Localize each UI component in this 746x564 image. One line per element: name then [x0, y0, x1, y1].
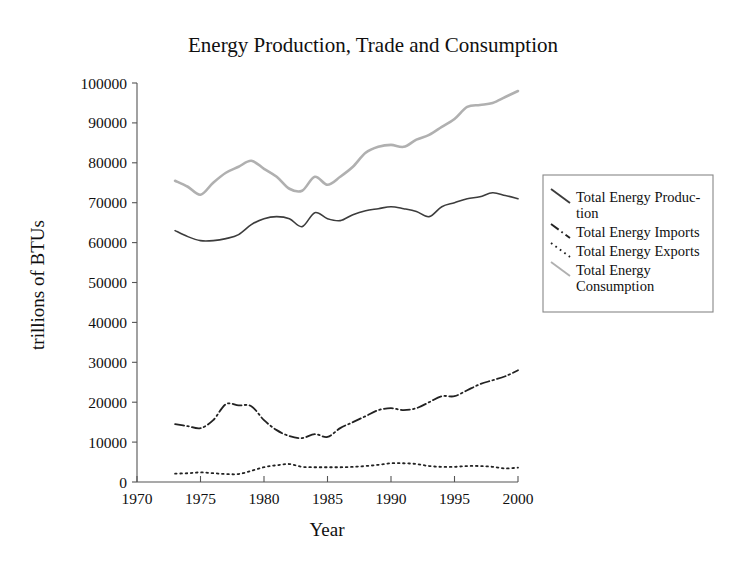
- legend-label-3: Consumption: [576, 278, 655, 294]
- x-axis: 1970197519801985199019952000: [122, 476, 534, 507]
- y-tick-label: 70000: [88, 194, 127, 211]
- y-tick-label: 20000: [88, 394, 127, 411]
- x-tick-label: 1975: [185, 490, 216, 507]
- y-tick-label: 90000: [88, 114, 127, 131]
- y-axis-label: trillions of BTUs: [27, 220, 48, 350]
- x-tick-label: 1980: [249, 490, 280, 507]
- x-tick-label: 2000: [503, 490, 534, 507]
- x-axis-label: Year: [309, 519, 345, 540]
- series-line-3: [175, 91, 518, 195]
- y-tick-label: 50000: [88, 274, 127, 291]
- page-title: Energy Production, Trade and Consumption: [188, 33, 559, 57]
- legend-label-1: Total Energy Imports: [576, 224, 700, 240]
- chart-page: Energy Production, Trade and Consumption…: [0, 0, 746, 564]
- x-tick-label: 1990: [376, 490, 407, 507]
- series-line-2: [175, 463, 518, 474]
- series-line-0: [175, 193, 518, 241]
- energy-line-chart: Energy Production, Trade and Consumption…: [0, 0, 746, 564]
- chart-legend[interactable]: Total Energy Produc-tionTotal Energy Imp…: [543, 175, 713, 312]
- legend-label-3: Total Energy: [576, 262, 652, 278]
- x-tick-label: 1995: [439, 490, 470, 507]
- legend-label-0: Total Energy Produc-: [576, 189, 701, 205]
- y-tick-label: 40000: [88, 314, 127, 331]
- y-axis: 0100002000030000400005000060000700008000…: [81, 75, 138, 491]
- y-tick-label: 60000: [88, 234, 127, 251]
- x-tick-label: 1985: [312, 490, 343, 507]
- legend-label-2: Total Energy Exports: [576, 243, 700, 259]
- legend-label-0: tion: [576, 205, 599, 221]
- series-line-1: [175, 370, 518, 438]
- y-tick-label: 80000: [88, 154, 127, 171]
- y-tick-label: 0: [119, 474, 127, 491]
- y-tick-label: 30000: [88, 354, 127, 371]
- y-tick-label: 10000: [88, 434, 127, 451]
- y-tick-label: 100000: [81, 75, 128, 92]
- series-lines: [175, 91, 518, 474]
- x-tick-label: 1970: [122, 490, 153, 507]
